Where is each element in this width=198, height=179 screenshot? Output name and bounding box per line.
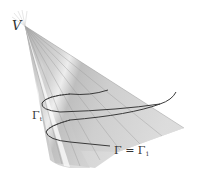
cone-diagram [0,0,198,179]
vertex-label: V [12,19,21,32]
curve-t-label: Γt [32,110,42,122]
curve-1-label: Γ = Γ1 [114,145,149,157]
